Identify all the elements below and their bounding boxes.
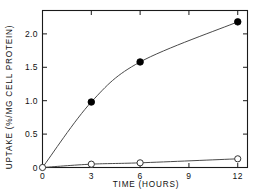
y-tick-label: 1.0 <box>25 96 38 106</box>
x-axis-title: TIME (HOURS) <box>113 180 179 189</box>
x-tick-label: 9 <box>186 171 191 181</box>
y-tick-label: 1.5 <box>25 62 38 72</box>
uptake-vs-time-line-chart: 036912 00.51.01.52.0 TIME (HOURS) UPTAKE… <box>0 0 259 192</box>
open-data-point <box>88 161 94 167</box>
open-data-point <box>137 160 143 166</box>
filled-data-point <box>234 19 241 26</box>
filled-data-point <box>88 99 95 106</box>
x-tick-label: 0 <box>40 171 45 181</box>
y-tick-label: 2.0 <box>25 29 38 39</box>
y-tick-label: 0 <box>33 163 38 173</box>
filled-data-point <box>137 59 144 66</box>
y-tick-label: 0.5 <box>25 129 38 139</box>
x-tick-label: 12 <box>233 171 243 181</box>
x-tick-label: 3 <box>89 171 94 181</box>
open-data-point <box>235 156 241 162</box>
y-axis-title: UPTAKE (%/MG CELL PROTEIN) <box>5 25 14 170</box>
open-data-point <box>39 164 45 170</box>
chart-figure: 036912 00.51.01.52.0 TIME (HOURS) UPTAKE… <box>0 0 259 192</box>
